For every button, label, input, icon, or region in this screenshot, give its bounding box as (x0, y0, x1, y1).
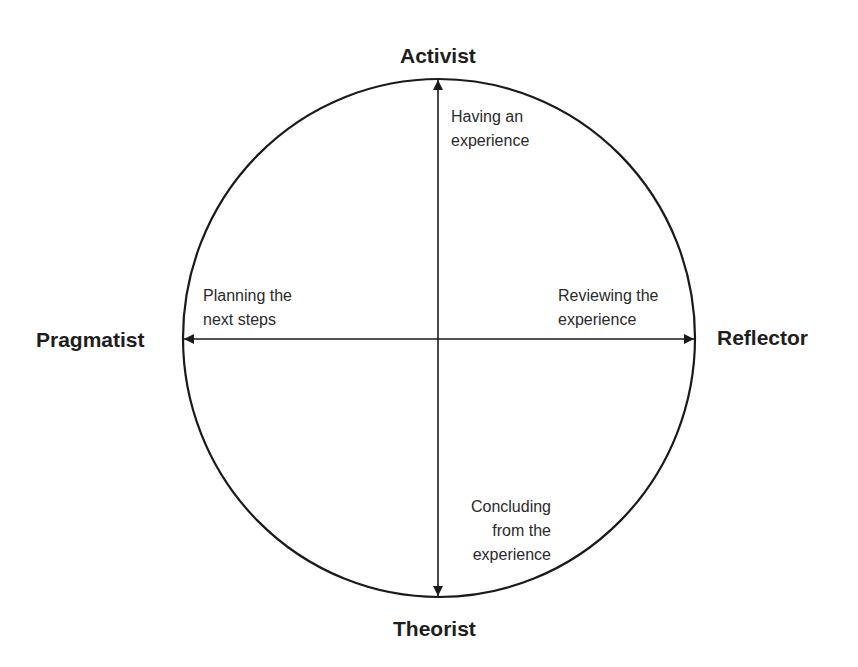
stage-left-line1: Planning the (203, 286, 292, 306)
stage-top-line2: experience (451, 131, 529, 151)
stage-right-line2: experience (558, 310, 636, 330)
stage-top-line1: Having an (451, 107, 523, 127)
stage-bottom-line3: experience (471, 545, 551, 565)
stage-bottom-line2: from the (471, 521, 551, 541)
stage-left-line2: next steps (203, 310, 276, 330)
role-reflector: Reflector (717, 326, 808, 350)
stage-concluding-experience: Concluding from the experience (471, 497, 551, 565)
role-pragmatist: Pragmatist (36, 328, 145, 352)
role-theorist: Theorist (393, 617, 476, 641)
cycle-circle (183, 79, 695, 597)
role-activist: Activist (400, 44, 476, 68)
stage-bottom-line1: Concluding (471, 497, 551, 517)
stage-right-line1: Reviewing the (558, 286, 659, 306)
